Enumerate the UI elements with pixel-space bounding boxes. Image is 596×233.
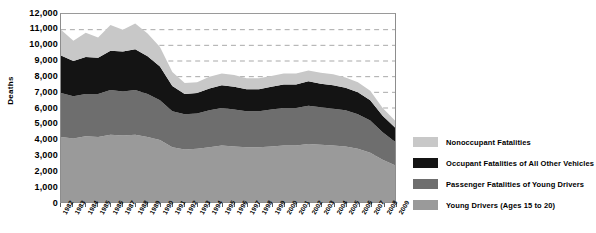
legend-label: Young Drivers (Ages 15 to 20) [446, 201, 555, 210]
x-axis-tick-label: 2009 [397, 199, 410, 215]
y-axis-tick-label: 10,000 [29, 40, 58, 49]
legend-label: Occupant Fatalities of All Other Vehicle… [446, 159, 594, 168]
legend-label: Nonoccupant Fatalities [446, 138, 531, 147]
y-axis-tick-label: 5,000 [34, 119, 58, 128]
y-axis-tick-label: 3,000 [34, 151, 58, 160]
x-axis-tick-labels: 1982198319841985198619871988198919901991… [60, 206, 396, 233]
y-axis-tick-label: 2,000 [34, 167, 58, 176]
legend-item[interactable]: Passenger Fatalities of Young Drivers [413, 175, 596, 193]
legend-swatch [413, 158, 438, 168]
y-axis-tick-label: 1,000 [34, 183, 58, 192]
plot-area [60, 13, 396, 203]
chart-container: Deaths 01,0002,0003,0004,0005,0006,0007,… [0, 0, 596, 233]
y-axis-tick-label: 8,000 [34, 72, 58, 81]
y-axis-tick-labels: 01,0002,0003,0004,0005,0006,0007,0008,00… [12, 0, 58, 233]
y-axis-tick-label: 0 [53, 199, 58, 208]
legend-item[interactable]: Young Drivers (Ages 15 to 20) [413, 196, 596, 214]
chart-legend: Nonoccupant FatalitiesOccupant Fatalitie… [413, 133, 596, 217]
legend-swatch [413, 137, 438, 147]
legend-item[interactable]: Occupant Fatalities of All Other Vehicle… [413, 154, 596, 172]
y-axis-tick-label: 11,000 [30, 24, 58, 33]
y-axis-tick-label: 12,000 [29, 9, 58, 18]
legend-label: Passenger Fatalities of Young Drivers [446, 180, 584, 189]
legend-item[interactable]: Nonoccupant Fatalities [413, 133, 596, 151]
y-axis-tick-label: 9,000 [34, 56, 58, 65]
y-axis-tick-label: 7,000 [34, 88, 58, 97]
legend-swatch [413, 179, 438, 189]
y-axis-tick-label: 6,000 [34, 104, 58, 113]
legend-swatch [413, 200, 438, 210]
stacked-area-plot [61, 14, 395, 202]
y-axis-tick-label: 4,000 [34, 135, 58, 144]
